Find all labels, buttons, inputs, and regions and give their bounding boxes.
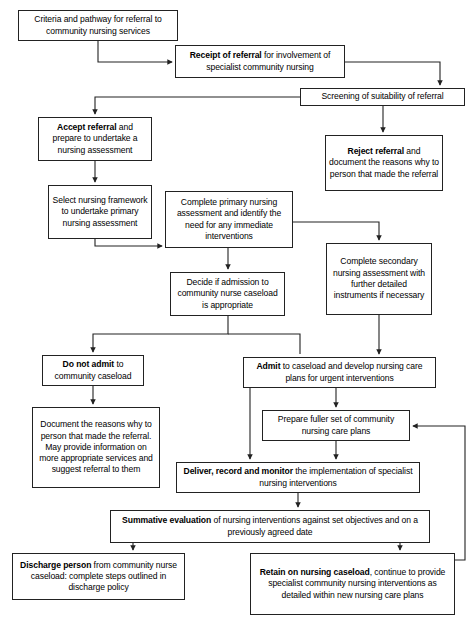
node-decide-label: Decide if admission to community nurse c… bbox=[174, 277, 281, 311]
node-do-not-admit[interactable]: Do not admit to community caseload bbox=[42, 355, 144, 386]
node-complete-secondary-assessment[interactable]: Complete secondary nursing assessment wi… bbox=[326, 243, 432, 315]
node-deliver-record-monitor[interactable]: Deliver, record and monitor the implemen… bbox=[176, 462, 420, 493]
node-noadmit-label: Do not admit to community caseload bbox=[46, 359, 140, 382]
node-prepare-label: Prepare fuller set of community nursing … bbox=[266, 414, 406, 437]
node-document-reasons[interactable]: Document the reasons why to person that … bbox=[32, 407, 160, 488]
node-accept-referral[interactable]: Accept referral and prepare to undertake… bbox=[38, 117, 152, 161]
node-summative-bold: Summative evaluation bbox=[122, 515, 211, 525]
node-admit-label: Admit to caseload and develop nursing ca… bbox=[247, 361, 432, 384]
node-discharge-label: Discharge person from community nurse ca… bbox=[16, 560, 181, 594]
edge-screening-to-accept bbox=[95, 97, 300, 114]
edge-receipt-to-screening bbox=[345, 62, 440, 85]
node-deliver-bold: Deliver, record and monitor bbox=[184, 466, 293, 476]
node-reject-label: Reject referral and document the reasons… bbox=[329, 146, 439, 180]
node-admit-to-caseload[interactable]: Admit to caseload and develop nursing ca… bbox=[243, 357, 436, 388]
node-retain-bold: Retain on nursing caseload bbox=[260, 567, 370, 577]
edge-criteria-to-receipt bbox=[98, 41, 172, 62]
node-decide-admission[interactable]: Decide if admission to community nurse c… bbox=[170, 272, 285, 316]
node-document-label: Document the reasons why to person that … bbox=[36, 419, 156, 475]
node-summative-label: Summative evaluation of nursing interven… bbox=[114, 515, 426, 538]
node-noadmit-bold: Do not admit bbox=[63, 359, 114, 369]
node-screening-of-suitability[interactable]: Screening of suitability of referral bbox=[300, 88, 465, 106]
node-admit-rest: to caseload and develop nursing care pla… bbox=[280, 361, 422, 382]
edge-primary-to-secondary bbox=[293, 222, 379, 240]
edge-select-to-primary bbox=[95, 239, 162, 246]
edge-decide-to-do-not-admit bbox=[93, 316, 228, 352]
node-accept-label: Accept referral and prepare to undertake… bbox=[42, 122, 148, 156]
node-prepare-fuller-care-plans[interactable]: Prepare fuller set of community nursing … bbox=[262, 410, 410, 441]
node-accept-bold: Accept referral bbox=[57, 122, 116, 132]
node-summative-evaluation[interactable]: Summative evaluation of nursing interven… bbox=[110, 510, 430, 543]
node-select-label: Select nursing framework to undertake pr… bbox=[52, 195, 148, 229]
node-discharge-person[interactable]: Discharge person from community nurse ca… bbox=[12, 553, 185, 600]
node-discharge-bold: Discharge person bbox=[20, 560, 91, 570]
node-deliver-label: Deliver, record and monitor the implemen… bbox=[180, 466, 416, 489]
node-receipt-of-referral[interactable]: Receipt of referral for involvement of s… bbox=[175, 45, 345, 78]
node-primary-label: Complete primary nursing assessment and … bbox=[169, 197, 289, 242]
node-select-nursing-framework[interactable]: Select nursing framework to undertake pr… bbox=[48, 185, 152, 239]
node-summative-rest: of nursing interventions against set obj… bbox=[211, 515, 418, 536]
node-complete-primary-assessment[interactable]: Complete primary nursing assessment and … bbox=[165, 191, 293, 248]
node-retain-label: Retain on nursing caseload, continue to … bbox=[254, 567, 451, 601]
node-receipt-bold: Receipt of referral bbox=[190, 50, 262, 60]
node-secondary-label: Complete secondary nursing assessment wi… bbox=[330, 256, 428, 301]
node-admit-bold: Admit bbox=[257, 361, 281, 371]
node-reject-referral[interactable]: Reject referral and document the reasons… bbox=[325, 135, 443, 191]
node-reject-bold: Reject referral bbox=[348, 146, 405, 156]
node-retain-on-caseload[interactable]: Retain on nursing caseload, continue to … bbox=[250, 553, 455, 615]
edge-decide-to-admit bbox=[228, 334, 300, 354]
node-criteria-and-pathway[interactable]: Criteria and pathway for referral to com… bbox=[18, 10, 178, 41]
flowchart-canvas: Criteria and pathway for referral to com… bbox=[0, 0, 474, 632]
node-receipt-label: Receipt of referral for involvement of s… bbox=[179, 50, 341, 73]
node-criteria-label: Criteria and pathway for referral to com… bbox=[22, 14, 174, 37]
node-screening-label: Screening of suitability of referral bbox=[304, 91, 461, 102]
